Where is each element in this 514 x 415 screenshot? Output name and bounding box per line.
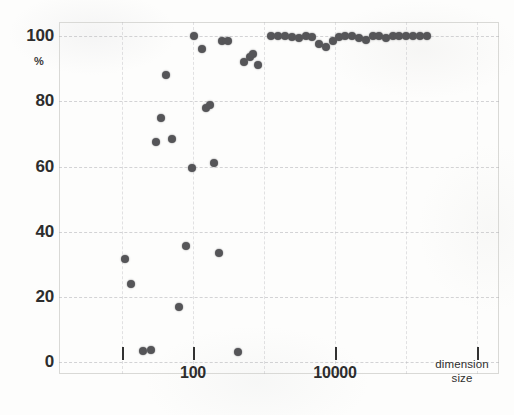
data-point — [157, 114, 165, 122]
gridline-vertical — [264, 22, 265, 374]
x-tick-mark-100 — [193, 347, 195, 360]
y-tick-label-60: 60 — [10, 157, 54, 177]
gridline-horizontal — [59, 101, 499, 102]
data-point — [206, 101, 214, 109]
y-tick-label-40: 40 — [10, 222, 54, 242]
x-axis-title-line1: dimension — [435, 358, 488, 371]
gridline-vertical — [193, 22, 194, 374]
data-point — [224, 37, 232, 45]
data-point — [210, 159, 218, 167]
plot-frame — [59, 22, 499, 374]
gridline-vertical — [406, 22, 407, 374]
data-point — [168, 135, 176, 143]
gridline-vertical — [335, 22, 336, 374]
y-tick-label-80: 80 — [10, 91, 54, 111]
gridline-vertical — [477, 22, 478, 374]
data-point — [249, 50, 257, 58]
y-axis-unit-label: % — [34, 55, 44, 67]
data-point — [175, 303, 183, 311]
y-tick-label-100: 100 — [10, 26, 54, 46]
gridline-horizontal — [59, 232, 499, 233]
x-tick-label-100: 100 — [180, 364, 206, 382]
x-axis-title-line2: size — [452, 372, 473, 385]
gridline-horizontal — [59, 362, 499, 363]
x-tick-label-10000: 10000 — [313, 364, 357, 382]
gridline-vertical — [122, 22, 123, 374]
data-point — [152, 138, 160, 146]
y-tick-label-0: 0 — [10, 352, 54, 372]
data-point — [190, 32, 198, 40]
data-point — [162, 71, 170, 79]
data-point — [423, 32, 431, 40]
data-point — [215, 249, 223, 257]
gridline-horizontal — [59, 297, 499, 298]
y-tick-label-20: 20 — [10, 287, 54, 307]
chart-root: 020406080100 10010000 % dimension size — [0, 0, 514, 415]
x-tick-mark-10000 — [335, 347, 337, 360]
gridline-horizontal — [59, 167, 499, 168]
x-tick-mark-10 — [122, 347, 124, 360]
